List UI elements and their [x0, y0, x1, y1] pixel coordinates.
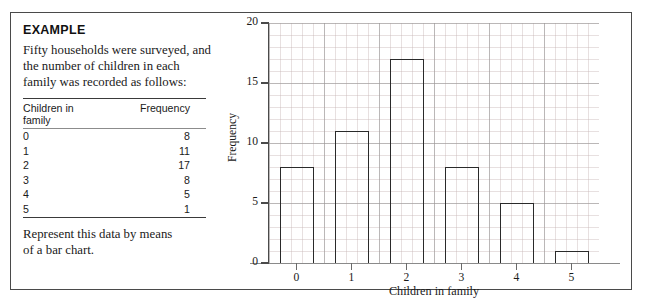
bar	[555, 251, 589, 263]
y-axis-tick	[261, 262, 269, 263]
x-axis-tick-label: 1	[337, 271, 367, 284]
bar	[280, 167, 314, 263]
cell-frequency: 8	[102, 129, 206, 144]
cell-frequency: 17	[102, 159, 206, 174]
x-axis-tick	[296, 263, 297, 270]
y-axis-tick-label: 0	[218, 255, 258, 268]
cell-category: 4	[23, 188, 102, 203]
y-axis-tick-label: 20	[218, 15, 258, 28]
x-axis-tick	[461, 263, 462, 270]
y-axis-tick	[261, 82, 269, 83]
page-root: EXAMPLE Fifty households were surveyed, …	[0, 0, 645, 307]
bar	[335, 131, 369, 263]
y-axis-tick	[261, 142, 269, 143]
intro-line-1: Fifty households were surveyed, and	[23, 42, 215, 58]
x-axis-tick-label: 5	[557, 271, 587, 284]
y-axis-tick	[261, 22, 269, 23]
example-box: EXAMPLE Fifty households were surveyed, …	[10, 12, 632, 290]
table-row: 3 8	[23, 173, 206, 188]
closing-line-1: Represent this data by means	[23, 226, 215, 242]
column-header-children: Children in family	[23, 99, 102, 129]
x-axis-tick	[571, 263, 572, 270]
x-axis-line	[250, 263, 620, 264]
column-header-children-line2: family	[23, 114, 102, 126]
column-header-children-line1: Children in	[23, 102, 74, 114]
table-row: 0 8	[23, 129, 206, 144]
table-row: 5 1	[23, 202, 206, 217]
y-axis-tick	[261, 202, 269, 203]
cell-frequency: 1	[102, 202, 206, 217]
bar-chart: Frequency 05101520 012345 Children in fa…	[216, 13, 633, 290]
bar	[445, 167, 479, 263]
x-axis-tick-label: 4	[502, 271, 532, 284]
cell-frequency: 8	[102, 173, 206, 188]
intro-line-2: the number of children in each	[23, 58, 215, 74]
closing-line-2: of a bar chart.	[23, 242, 215, 258]
intro-paragraph: Fifty households were surveyed, and the …	[23, 42, 215, 91]
column-header-frequency: Frequency	[102, 99, 206, 129]
cell-category: 3	[23, 173, 102, 188]
cell-category: 0	[23, 129, 102, 144]
cell-frequency: 11	[102, 144, 206, 159]
cell-frequency: 5	[102, 188, 206, 203]
frequency-table: Children in family Frequency 0 8 1	[23, 98, 206, 218]
page-title: EXAMPLE	[23, 23, 215, 37]
table-row: 1 11	[23, 144, 206, 159]
x-axis-tick	[351, 263, 352, 270]
x-axis-tick	[516, 263, 517, 270]
table-row: 4 5	[23, 188, 206, 203]
table-header-row: Children in family Frequency	[23, 99, 206, 129]
x-axis-tick-label: 2	[392, 271, 422, 284]
y-axis-tick-label: 10	[218, 135, 258, 148]
bar	[500, 203, 534, 263]
table-row: 2 17	[23, 159, 206, 174]
x-axis-tick	[406, 263, 407, 270]
cell-category: 1	[23, 144, 102, 159]
table-rule-bottom	[23, 217, 206, 218]
closing-paragraph: Represent this data by means of a bar ch…	[23, 226, 215, 258]
x-axis-tick-label: 3	[447, 271, 477, 284]
x-axis-title: Children in family	[269, 284, 599, 299]
x-axis-tick-label: 0	[282, 271, 312, 284]
y-axis-tick-label: 5	[218, 195, 258, 208]
plot-area	[269, 23, 599, 263]
intro-line-3: family was recorded as follows:	[23, 74, 215, 90]
bar	[390, 59, 424, 263]
example-text-panel: EXAMPLE Fifty households were surveyed, …	[23, 23, 215, 281]
cell-category: 2	[23, 159, 102, 174]
y-axis-tick-label: 15	[218, 75, 258, 88]
cell-category: 5	[23, 202, 102, 217]
